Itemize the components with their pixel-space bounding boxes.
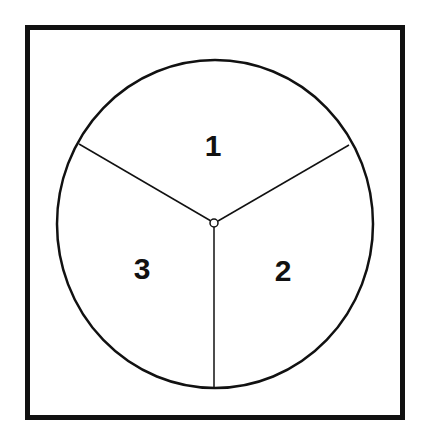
sector-label-3: 3 [134,252,151,285]
sector-label-2: 2 [275,254,292,287]
sector-diagram: 1 2 3 [0,0,435,443]
center-hub-icon [210,219,218,227]
sector-label-1: 1 [205,129,222,162]
